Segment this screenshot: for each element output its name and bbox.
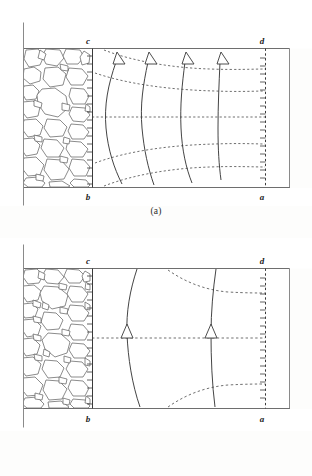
panel-a-caption: (a) bbox=[0, 206, 312, 216]
panel-b-bottom-mask bbox=[0, 409, 312, 431]
panel-a: c d b a (a) bbox=[0, 0, 312, 238]
panel-a-label-b: b bbox=[86, 192, 91, 202]
panel-b-drawing: c d b a bbox=[0, 238, 312, 438]
panel-a-drawing: c d b a bbox=[0, 0, 312, 206]
figure-page: c d b a (a) bbox=[0, 0, 312, 476]
panel-a-left-mask bbox=[0, 40, 24, 200]
panel-b: c d b a (b) bbox=[0, 238, 312, 476]
panel-b-label-b: b bbox=[86, 414, 91, 424]
panel-a-top-mask bbox=[0, 0, 312, 49]
panel-a-label-d: d bbox=[260, 36, 265, 46]
panel-b-top-mask bbox=[0, 238, 312, 269]
panel-a-label-a: a bbox=[260, 192, 265, 202]
panel-b-rockfill-zone bbox=[19, 269, 90, 408]
panel-b-label-d: d bbox=[260, 256, 265, 266]
panel-b-left-mask bbox=[0, 262, 24, 422]
panel-a-label-c: c bbox=[86, 36, 90, 46]
panel-a-bottom-mask bbox=[0, 188, 312, 206]
panel-b-label-a: a bbox=[260, 414, 265, 424]
panel-b-label-c: c bbox=[86, 256, 90, 266]
